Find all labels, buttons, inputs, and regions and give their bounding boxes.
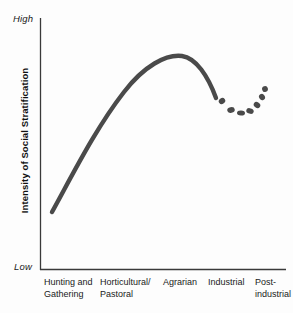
x-tick-label-hunting-and-gathering: Hunting and Gathering [44, 277, 93, 300]
dash-segment [218, 97, 227, 106]
dash-segment [261, 85, 268, 92]
dash-segment [227, 106, 236, 113]
trend-curve-dashed [218, 85, 269, 115]
x-tick-label-line: Pastoral [100, 289, 151, 301]
x-tick-label-line: industrial [255, 289, 291, 301]
x-tick-label-line: Post- [255, 277, 291, 289]
dash-segment [246, 107, 255, 114]
dash-segment [253, 101, 262, 110]
x-tick-label-line: Gathering [44, 289, 93, 301]
x-tick-label-line: Agrarian [163, 277, 197, 289]
trend-curve-solid [52, 56, 216, 212]
chart-canvas [0, 0, 293, 313]
x-tick-label-line: Horticultural/ [100, 277, 151, 289]
y-axis-title: Intensity of Social Stratification [19, 61, 30, 221]
x-tick-label-post-industrial: Post- industrial [255, 277, 291, 300]
chart-figure: High Low Intensity of Social Stratificat… [0, 0, 293, 313]
y-axis-low-label: Low [14, 261, 32, 272]
x-tick-label-agrarian: Agrarian [163, 277, 197, 289]
x-tick-label-line: Hunting and [44, 277, 93, 289]
x-tick-label-industrial: Industrial [208, 277, 245, 289]
dash-segment [258, 93, 266, 102]
x-tick-label-horticultural-pastoral: Horticultural/ Pastoral [100, 277, 151, 300]
y-axis-high-label: High [13, 13, 33, 24]
x-tick-label-line: Industrial [208, 277, 245, 289]
dash-segment [237, 110, 245, 115]
